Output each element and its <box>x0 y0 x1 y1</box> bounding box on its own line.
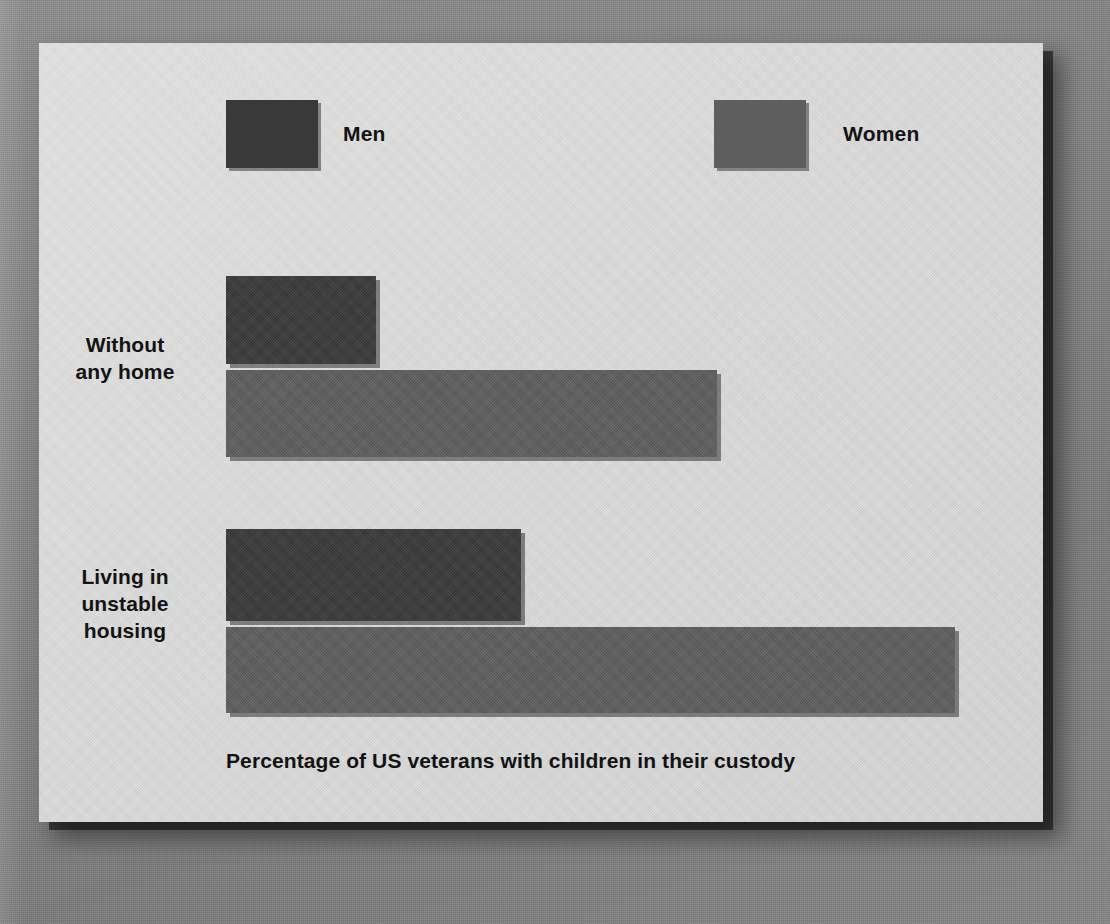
category-label-line: any home <box>39 358 211 385</box>
bar-group-without-any-home: Without any home <box>39 276 1043 457</box>
bar-women-without-any-home <box>226 370 717 457</box>
figure-background: Men Women Without any home Livin <box>0 0 1110 924</box>
category-label-line: Without <box>39 331 211 358</box>
category-label-without-any-home: Without any home <box>39 331 211 385</box>
category-label-line: Living in <box>39 563 211 590</box>
bar-group-living-in-unstable-housing: Living in unstable housing <box>39 529 1043 713</box>
category-label-line: unstable <box>39 590 211 617</box>
bar-men-living-in-unstable-housing <box>226 529 521 621</box>
bar-women-living-in-unstable-housing <box>226 627 955 713</box>
plot-area: Without any home Living in unstable hous… <box>39 43 1043 822</box>
category-label-line: housing <box>39 617 211 644</box>
chart-card: Men Women Without any home Livin <box>39 43 1043 822</box>
bar-men-without-any-home <box>226 276 376 364</box>
category-label-living-in-unstable-housing: Living in unstable housing <box>39 563 211 644</box>
chart-caption: Percentage of US veterans with children … <box>226 749 795 773</box>
